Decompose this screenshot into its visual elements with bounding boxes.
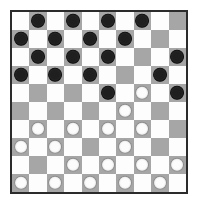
board-grid[interactable] xyxy=(12,12,186,192)
board-square-g2[interactable] xyxy=(116,156,133,174)
board-square-a4[interactable] xyxy=(12,120,29,138)
board-square-e1[interactable] xyxy=(82,174,99,192)
black-piece[interactable] xyxy=(49,68,63,82)
board-square-d7[interactable] xyxy=(64,66,81,84)
board-square-b1[interactable] xyxy=(29,174,46,192)
board-square-g7[interactable] xyxy=(116,66,133,84)
board-square-j9[interactable] xyxy=(169,30,186,48)
board-square-d3[interactable] xyxy=(64,138,81,156)
board-square-e8[interactable] xyxy=(82,48,99,66)
white-piece[interactable] xyxy=(136,158,150,172)
board-square-j3[interactable] xyxy=(169,138,186,156)
board-square-a9[interactable] xyxy=(12,30,29,48)
board-square-e5[interactable] xyxy=(82,102,99,120)
board-square-f2[interactable] xyxy=(99,156,116,174)
board-square-c7[interactable] xyxy=(47,66,64,84)
board-square-h7[interactable] xyxy=(134,66,151,84)
board-square-i3[interactable] xyxy=(151,138,168,156)
board-square-j4[interactable] xyxy=(169,120,186,138)
white-piece[interactable] xyxy=(31,122,45,136)
board-square-i6[interactable] xyxy=(151,84,168,102)
black-piece[interactable] xyxy=(31,14,45,28)
board-square-d4[interactable] xyxy=(64,120,81,138)
board-square-e9[interactable] xyxy=(82,30,99,48)
white-piece[interactable] xyxy=(83,176,97,190)
board-square-b9[interactable] xyxy=(29,30,46,48)
board-square-b3[interactable] xyxy=(29,138,46,156)
board-square-h3[interactable] xyxy=(134,138,151,156)
board-square-g4[interactable] xyxy=(116,120,133,138)
board-square-i2[interactable] xyxy=(151,156,168,174)
board-square-i4[interactable] xyxy=(151,120,168,138)
white-piece[interactable] xyxy=(153,176,167,190)
board-square-e10[interactable] xyxy=(82,12,99,30)
board-square-j8[interactable] xyxy=(169,48,186,66)
board-square-e6[interactable] xyxy=(82,84,99,102)
board-square-f4[interactable] xyxy=(99,120,116,138)
board-square-d10[interactable] xyxy=(64,12,81,30)
board-square-h4[interactable] xyxy=(134,120,151,138)
board-square-e7[interactable] xyxy=(82,66,99,84)
black-piece[interactable] xyxy=(101,14,115,28)
black-piece[interactable] xyxy=(66,50,80,64)
board-square-a5[interactable] xyxy=(12,102,29,120)
board-square-e4[interactable] xyxy=(82,120,99,138)
board-square-h5[interactable] xyxy=(134,102,151,120)
board-square-b10[interactable] xyxy=(29,12,46,30)
black-piece[interactable] xyxy=(83,68,97,82)
board-square-b8[interactable] xyxy=(29,48,46,66)
black-piece[interactable] xyxy=(170,50,184,64)
black-piece[interactable] xyxy=(118,32,132,46)
board-square-d6[interactable] xyxy=(64,84,81,102)
white-piece[interactable] xyxy=(136,86,150,100)
board-square-f8[interactable] xyxy=(99,48,116,66)
white-piece[interactable] xyxy=(101,122,115,136)
board-square-g9[interactable] xyxy=(116,30,133,48)
board-square-h9[interactable] xyxy=(134,30,151,48)
black-piece[interactable] xyxy=(49,32,63,46)
black-piece[interactable] xyxy=(31,50,45,64)
board-square-c8[interactable] xyxy=(47,48,64,66)
board-square-h2[interactable] xyxy=(134,156,151,174)
board-square-f1[interactable] xyxy=(99,174,116,192)
board-square-c4[interactable] xyxy=(47,120,64,138)
board-square-h8[interactable] xyxy=(134,48,151,66)
board-square-g10[interactable] xyxy=(116,12,133,30)
board-square-d9[interactable] xyxy=(64,30,81,48)
board-square-d2[interactable] xyxy=(64,156,81,174)
board-square-j6[interactable] xyxy=(169,84,186,102)
board-square-i7[interactable] xyxy=(151,66,168,84)
board-square-i9[interactable] xyxy=(151,30,168,48)
board-square-i5[interactable] xyxy=(151,102,168,120)
white-piece[interactable] xyxy=(118,176,132,190)
white-piece[interactable] xyxy=(14,176,28,190)
white-piece[interactable] xyxy=(118,140,132,154)
white-piece[interactable] xyxy=(66,122,80,136)
board-square-f3[interactable] xyxy=(99,138,116,156)
board-square-d5[interactable] xyxy=(64,102,81,120)
black-piece[interactable] xyxy=(101,86,115,100)
board-square-a10[interactable] xyxy=(12,12,29,30)
white-piece[interactable] xyxy=(66,158,80,172)
board-square-h1[interactable] xyxy=(134,174,151,192)
board-square-h10[interactable] xyxy=(134,12,151,30)
board-square-a3[interactable] xyxy=(12,138,29,156)
board-square-g5[interactable] xyxy=(116,102,133,120)
board-square-h6[interactable] xyxy=(134,84,151,102)
board-square-a6[interactable] xyxy=(12,84,29,102)
board-square-g3[interactable] xyxy=(116,138,133,156)
black-piece[interactable] xyxy=(101,50,115,64)
board-square-f9[interactable] xyxy=(99,30,116,48)
board-square-a2[interactable] xyxy=(12,156,29,174)
board-square-j1[interactable] xyxy=(169,174,186,192)
black-piece[interactable] xyxy=(66,14,80,28)
white-piece[interactable] xyxy=(136,122,150,136)
black-piece[interactable] xyxy=(14,68,28,82)
board-square-a8[interactable] xyxy=(12,48,29,66)
white-piece[interactable] xyxy=(170,158,184,172)
white-piece[interactable] xyxy=(49,140,63,154)
board-square-c3[interactable] xyxy=(47,138,64,156)
board-square-c9[interactable] xyxy=(47,30,64,48)
board-square-i8[interactable] xyxy=(151,48,168,66)
board-square-c10[interactable] xyxy=(47,12,64,30)
